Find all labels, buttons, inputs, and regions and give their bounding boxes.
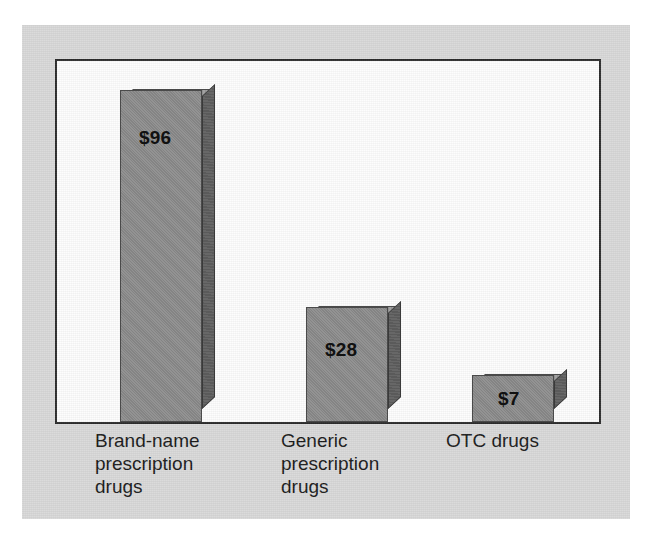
category-label-generic: Generic prescription drugs <box>281 429 456 498</box>
bar-front-face-generic <box>306 307 388 422</box>
bar-value-generic: $28 <box>325 339 357 361</box>
bar-value-brand-name: $96 <box>139 127 171 149</box>
figure-panel: $96 $28 $7 Brand-name pres <box>22 25 630 519</box>
category-label-otc: OTC drugs <box>446 429 621 452</box>
bar-side-face-brand-name <box>202 84 215 409</box>
bar-group-otc[interactable]: $7 <box>472 362 567 422</box>
category-label-brand-name: Brand-name prescription drugs <box>95 429 270 498</box>
plot-area: $96 $28 $7 <box>55 59 601 424</box>
bar-group-brand-name[interactable]: $96 <box>120 77 215 422</box>
bar-group-generic[interactable]: $28 <box>306 294 401 422</box>
bar-value-otc: $7 <box>498 388 520 410</box>
bar-side-face-generic <box>388 301 401 409</box>
bars-layer: $96 $28 $7 <box>57 61 599 422</box>
scanned-page: $96 $28 $7 Brand-name pres <box>0 0 655 548</box>
